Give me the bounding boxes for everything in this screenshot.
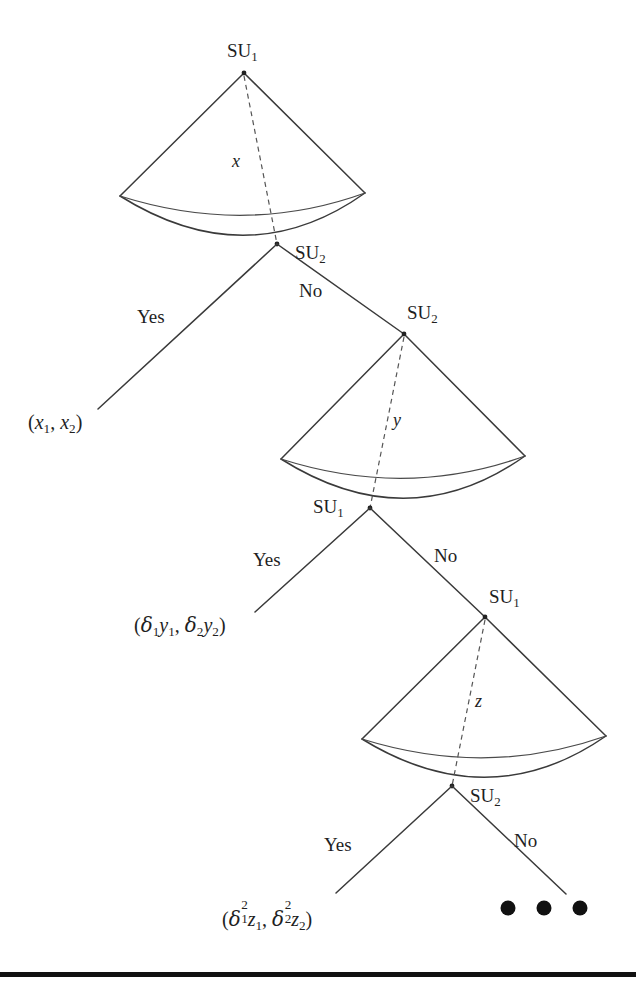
cone-3-yes-branch bbox=[336, 786, 452, 893]
cone-1-yes-label: Yes bbox=[137, 307, 165, 326]
cone-1-shape bbox=[120, 71, 365, 247]
cone-1-base-back-arc bbox=[120, 193, 365, 215]
leaf-3-label: (δ21z1, δ22z2) bbox=[222, 906, 312, 932]
cone-1-axis-variable-label: x bbox=[232, 152, 240, 170]
bottom-divider-rule bbox=[0, 972, 636, 977]
cone-2-axis-variable-label: y bbox=[393, 411, 401, 429]
cone-1-no-label: No bbox=[299, 281, 322, 300]
cone-2-right-edge bbox=[404, 334, 525, 456]
leaf-1-label: (x1, x2) bbox=[28, 412, 82, 435]
cone-3-no-label: No bbox=[514, 831, 537, 850]
cone-1-left-edge bbox=[120, 73, 244, 196]
cone-2-base-label: SU1 bbox=[313, 497, 344, 520]
cone-3-axis-variable-label: z bbox=[475, 692, 482, 710]
cone-3-base-back-arc bbox=[362, 736, 606, 758]
ellipsis-dot-2 bbox=[537, 901, 552, 916]
cone-3-right-edge bbox=[485, 617, 606, 736]
cone-2-apex-label: SU2 bbox=[407, 303, 438, 326]
leaf-2-label: (δ1y1, δ2y2) bbox=[134, 615, 226, 638]
cone-3-base-front-arc bbox=[362, 736, 606, 777]
cone-2-apex-dot bbox=[402, 332, 407, 337]
cone-1-apex-label: SU1 bbox=[227, 41, 258, 64]
cone-2-no-label: No bbox=[434, 546, 457, 565]
cone-2-shape bbox=[281, 332, 525, 511]
cone-2-yes-label: Yes bbox=[253, 550, 281, 569]
cone-2-base-front-arc bbox=[281, 456, 525, 498]
diagram-root: SU1 x SU2 Yes No (x1, x2) SU2 y SU1 Yes … bbox=[0, 0, 636, 989]
cone-1-yes-branch bbox=[98, 244, 277, 409]
cone-2-no-branch bbox=[370, 508, 485, 617]
cone-3-shape bbox=[362, 615, 606, 789]
tree-figure bbox=[0, 0, 636, 989]
cone-3-yes-label: Yes bbox=[324, 835, 352, 854]
ellipsis-dots bbox=[501, 901, 588, 916]
cone-1-apex-dot bbox=[242, 71, 247, 76]
cone-2-base-back-arc bbox=[281, 456, 525, 478]
ellipsis-dot-1 bbox=[501, 901, 516, 916]
cone-3-apex-label: SU1 bbox=[489, 587, 520, 610]
cone-1-base-front-arc bbox=[120, 193, 365, 235]
cone-3-left-edge bbox=[362, 617, 485, 739]
ellipsis-dot-3 bbox=[573, 901, 588, 916]
cone-3-apex-dot bbox=[483, 615, 488, 620]
cone-1-right-edge bbox=[244, 73, 365, 193]
cone-1-base-label: SU2 bbox=[295, 243, 326, 266]
cone-3-base-label: SU2 bbox=[470, 786, 501, 809]
cone-2-left-edge bbox=[281, 334, 404, 459]
